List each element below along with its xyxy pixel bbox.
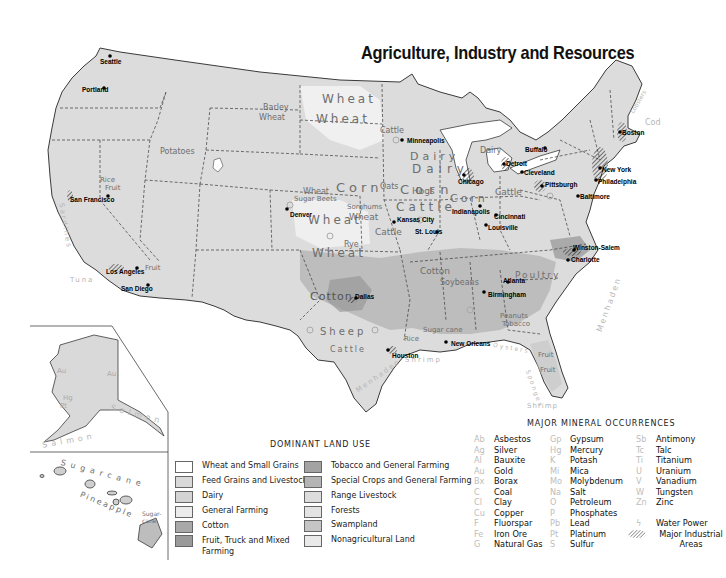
mineral-item: OPetroleum xyxy=(550,497,612,507)
water-power-legend: ϟ Water Power xyxy=(636,518,708,528)
hatched-area-icon xyxy=(627,529,647,539)
land-use-item: Forests xyxy=(304,506,360,518)
crop-label: Oats xyxy=(380,182,399,191)
swatch-feed-grains xyxy=(175,476,193,488)
mineral-item: TiTitanium xyxy=(636,455,692,465)
mineral-item: FeIron Ore xyxy=(474,529,527,539)
mineral-item: SSulfur xyxy=(550,539,594,549)
fishery-label: Tuna xyxy=(70,276,94,284)
crop-label: Peanuts xyxy=(500,312,528,320)
mineral-legend-title: MAJOR MINERAL OCCURRENCES xyxy=(527,419,675,428)
mineral-item: ClClay xyxy=(474,497,512,507)
city-label: Charlotte xyxy=(571,256,600,263)
alaska-mineral-label: Au xyxy=(107,370,116,378)
swatch-tobacco xyxy=(304,461,322,473)
crop-label: Wheat xyxy=(312,246,366,260)
crop-label: Dairy xyxy=(412,162,469,176)
mineral-item: BxBorax xyxy=(474,476,518,486)
crop-label: Corn xyxy=(450,192,488,205)
mineral-item: AgSilver xyxy=(474,445,517,455)
mineral-item: MiMica xyxy=(550,466,589,476)
city-label: San Diego xyxy=(121,285,153,292)
crop-label: Rice xyxy=(404,335,419,343)
mineral-item: PtPlatinum xyxy=(550,529,606,539)
mineral-item: FFluorspar xyxy=(474,518,532,528)
crop-label: Wheat xyxy=(316,112,370,126)
crop-label: Rice xyxy=(100,176,115,184)
mineral-item: GpGypsum xyxy=(550,434,604,444)
alaska-mineral-label: Au xyxy=(57,367,66,375)
crop-label: Hogs xyxy=(412,186,435,196)
city-label: Seattle xyxy=(100,58,121,65)
land-use-item: Dairy xyxy=(175,491,223,503)
industrial-areas-legend: Major Industrial Areas xyxy=(627,529,726,549)
city-label: Portland xyxy=(82,86,108,93)
crop-label: Wheat xyxy=(308,213,362,227)
swatch-cotton xyxy=(175,521,193,533)
city-label: Winston-Salem xyxy=(573,244,620,251)
fishery-label: Shrimp xyxy=(405,356,442,364)
city-label: Birmingham xyxy=(488,291,526,298)
crop-label: Fruit xyxy=(538,351,554,359)
crop-label: Wheat xyxy=(259,113,285,122)
crop-label: Soybeans xyxy=(440,278,479,287)
swatch-swampland xyxy=(304,520,322,532)
crop-label: Cattle xyxy=(396,200,456,214)
city-label: Detroit xyxy=(506,160,527,167)
crop-label: Sheep xyxy=(320,326,366,337)
crop-label: Wheat xyxy=(322,92,376,106)
city-label: Pittsburgh xyxy=(545,181,578,188)
swatch-special-crops xyxy=(304,476,322,488)
alaska-mineral-label: Hg xyxy=(63,394,73,402)
city-label: San Francisco xyxy=(70,196,114,203)
crop-label: Poultry xyxy=(515,270,560,280)
land-use-item: Range Livestock xyxy=(304,491,396,503)
land-use-item: Swampland xyxy=(304,520,378,532)
city-label: Dallas xyxy=(355,293,374,300)
land-use-item: General Farming xyxy=(175,506,268,518)
city-label: Los Angeles xyxy=(106,268,144,275)
alaska-mineral-label: Pt xyxy=(60,402,67,410)
land-use-item: Fruit, Truck and Mixed Farming xyxy=(175,535,312,557)
crop-label: Dairy xyxy=(480,146,501,155)
swatch-general-farming xyxy=(175,506,193,518)
crop-label: Cattle xyxy=(375,227,402,237)
mineral-item: PPhosphates xyxy=(550,508,617,518)
mineral-item: SbAntimony xyxy=(636,434,695,444)
city-label: Kansas City xyxy=(397,216,434,223)
swatch-range-livestock xyxy=(304,491,322,503)
mineral-item: AuGold xyxy=(474,466,513,476)
crop-label: Sugar Beets xyxy=(294,195,337,203)
swatch-fruit-truck xyxy=(175,535,193,547)
city-label: Philadelphia xyxy=(598,178,636,185)
city-label: St. Louis xyxy=(415,228,442,235)
swatch-forests xyxy=(304,506,322,518)
swatch-nonagricultural xyxy=(304,535,322,547)
city-label: Chicago xyxy=(458,178,484,185)
mineral-item: VVanadium xyxy=(636,476,697,486)
mineral-item: ZnZinc xyxy=(636,497,674,507)
mineral-item: UUranium xyxy=(636,466,691,476)
mineral-item: KPotash xyxy=(550,455,597,465)
swatch-dairy xyxy=(175,491,193,503)
crop-label: Fruit xyxy=(145,264,161,272)
crop-label: Fruit xyxy=(540,366,556,374)
mineral-item: HgMercury xyxy=(550,445,603,455)
crop-label: Wheat xyxy=(303,187,329,196)
fishery-label: Cod xyxy=(645,118,661,127)
mineral-item: WTungsten xyxy=(636,487,693,497)
mineral-item: CuCopper xyxy=(474,508,524,518)
land-use-item: Cotton xyxy=(175,521,229,533)
mineral-item: GNatural Gas xyxy=(474,539,542,549)
land-use-item: Nonagricultural Land xyxy=(304,535,415,547)
mineral-item: PbLead xyxy=(550,518,590,528)
city-label: Minneapolis xyxy=(407,137,445,144)
crop-label: Corn xyxy=(336,180,382,195)
crop-label: Tobacco xyxy=(502,320,530,328)
lightning-icon: ϟ xyxy=(636,518,656,528)
mineral-item: TcTalc xyxy=(636,445,671,455)
city-label: New York xyxy=(602,166,631,173)
city-label: Boston xyxy=(622,129,644,136)
mineral-item: MoMolybdenum xyxy=(550,476,623,486)
crop-label: Fruit xyxy=(105,184,121,192)
